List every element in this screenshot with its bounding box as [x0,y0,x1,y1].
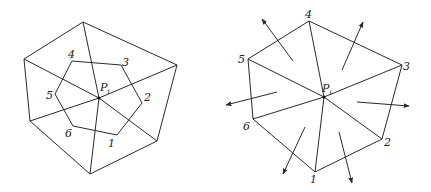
center-point [98,97,101,100]
vertex-label: 6 [243,120,250,133]
outward-arrow-icon [283,127,305,174]
vertex-label: 1 [310,173,317,186]
vertex-label: 3 [122,56,129,69]
outward-arrow-icon [339,132,352,183]
left-figure: Pi123456 [24,22,177,174]
vertex-label: 4 [67,48,75,61]
vertex-label: 5 [46,89,53,102]
outward-arrow-icon [342,22,363,70]
center-label: Pi [321,82,332,97]
spoke-line [248,59,324,97]
vertex-label: 3 [403,60,410,73]
center-point [323,96,326,99]
spoke-line [99,98,157,141]
vertex-label: 6 [65,127,72,140]
spoke-line [99,65,177,98]
spoke-line [24,59,99,98]
spoke-line [30,98,99,121]
vertex-label: 4 [304,8,312,21]
vertex-label: 1 [108,137,115,150]
diagram-canvas: Pi123456 Pi123456 [0,0,431,192]
vertex-label: 2 [383,136,391,149]
vertex-label: 2 [143,91,151,104]
center-label: Pi [99,81,110,96]
spoke-line [253,97,324,119]
outward-arrow-icon [357,102,409,106]
spoke-line [324,65,402,97]
spoke-line [315,97,324,172]
right-figure: Pi123456 [226,8,410,186]
spoke-line [90,98,99,174]
vertex-label: 5 [238,53,245,66]
outward-arrow-icon [262,19,293,61]
spoke-line [83,22,99,98]
